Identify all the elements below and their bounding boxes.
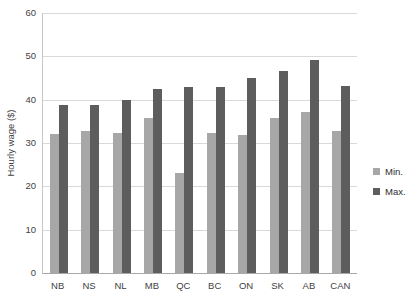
y-tick-20: 20 <box>0 180 36 192</box>
bar-max-ns <box>90 105 99 273</box>
bar-max-nb <box>59 105 68 273</box>
x-label-can: CAN <box>320 280 360 292</box>
legend-swatch-max-icon <box>373 188 380 195</box>
gridline-50 <box>43 56 357 57</box>
bar-min-on <box>238 135 247 273</box>
bar-min-bc <box>207 133 216 273</box>
bar-min-mb <box>144 118 153 273</box>
plot-area <box>42 13 357 274</box>
bar-max-ab <box>310 60 319 273</box>
bar-min-can <box>332 131 341 273</box>
legend-label-max: Max. <box>385 186 406 197</box>
y-tick-0: 0 <box>0 267 36 279</box>
bar-min-ab <box>301 112 310 273</box>
bar-min-nl <box>113 133 122 273</box>
y-tick-40: 40 <box>0 94 36 106</box>
bar-max-qc <box>184 87 193 273</box>
legend-swatch-min-icon <box>373 168 380 175</box>
bar-min-qc <box>175 173 184 273</box>
legend-label-min: Min. <box>385 166 403 177</box>
bar-min-ns <box>81 131 90 273</box>
y-tick-30: 30 <box>0 137 36 149</box>
bar-min-nb <box>50 134 59 273</box>
y-tick-60: 60 <box>0 7 36 19</box>
y-tick-50: 50 <box>0 50 36 62</box>
gridline-60 <box>43 13 357 14</box>
wage-bar-chart: Hourly wage ($) 0102030405060 NBNSNLMBQC… <box>0 0 412 302</box>
bar-max-mb <box>153 89 162 273</box>
legend-entry-min: Min. <box>373 166 403 177</box>
bar-max-nl <box>122 100 131 273</box>
bar-max-can <box>341 86 350 273</box>
bar-max-sk <box>279 71 288 273</box>
y-tick-10: 10 <box>0 224 36 236</box>
legend-entry-max: Max. <box>373 186 406 197</box>
bar-max-on <box>247 78 256 273</box>
bar-max-bc <box>216 87 225 273</box>
bar-min-sk <box>270 118 279 273</box>
